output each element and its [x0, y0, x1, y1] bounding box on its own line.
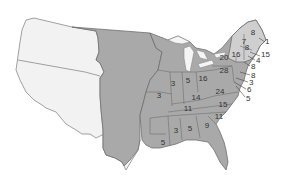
electoral-vote-label: 16 [199, 75, 208, 83]
electoral-vote-label: 8 [251, 29, 255, 37]
electoral-vote-label: 5 [188, 125, 192, 133]
electoral-vote-label: 11 [215, 113, 223, 121]
electoral-vote-label: 5 [161, 139, 165, 147]
electoral-vote-label: 8 [245, 44, 249, 52]
electoral-vote-label: 3 [174, 127, 178, 135]
electoral-vote-label: 6 [247, 86, 251, 94]
electoral-vote-label: 15 [219, 101, 228, 109]
us-map [0, 0, 284, 191]
electoral-vote-label: 24 [216, 88, 225, 96]
electoral-vote-label: 15 [261, 51, 270, 59]
electoral-vote-label: 3 [171, 80, 175, 88]
electoral-vote-label: 28 [220, 67, 229, 75]
electoral-vote-label: 9 [205, 122, 209, 130]
electoral-vote-label: 16 [232, 51, 241, 59]
electoral-vote-label: 20 [220, 54, 229, 62]
electoral-vote-label: 1 [265, 38, 269, 46]
electoral-vote-label: 3 [157, 92, 161, 100]
electoral-vote-label: 4 [256, 57, 260, 65]
electoral-vote-label: 8 [251, 63, 255, 71]
electoral-vote-label: 5 [186, 77, 190, 85]
electoral-vote-label: 11 [184, 105, 192, 113]
electoral-vote-label: 5 [246, 95, 250, 103]
electoral-vote-label: 14 [192, 94, 201, 102]
